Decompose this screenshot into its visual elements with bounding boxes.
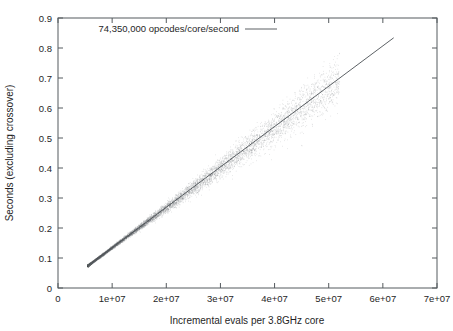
y-tick-label: 0 xyxy=(47,283,52,294)
chart-canvas: 01e+072e+073e+074e+075e+076e+077e+07 00.… xyxy=(0,0,453,331)
y-tick-label: 0.4 xyxy=(39,163,52,174)
x-tick-label: 5e+07 xyxy=(315,293,342,304)
y-axis-title: Seconds (excluding crossover) xyxy=(4,85,15,222)
y-tick-label: 0.9 xyxy=(39,13,52,24)
chart-background xyxy=(0,0,453,331)
x-tick-label: 6e+07 xyxy=(370,293,397,304)
x-tick-label: 7e+07 xyxy=(424,293,451,304)
y-tick-label: 0.7 xyxy=(39,73,52,84)
y-tick-label: 0.5 xyxy=(39,133,52,144)
x-tick-label: 1e+07 xyxy=(99,293,126,304)
x-tick-label: 4e+07 xyxy=(261,293,288,304)
y-tick-label: 0.2 xyxy=(39,223,52,234)
x-tick-label: 0 xyxy=(55,293,60,304)
x-tick-label: 3e+07 xyxy=(207,293,234,304)
y-tick-label: 0.8 xyxy=(39,43,52,54)
legend-label-opcodes: 74,350,000 opcodes/core/second xyxy=(99,23,240,34)
scatter-chart: 01e+072e+073e+074e+075e+076e+077e+07 00.… xyxy=(0,0,453,331)
y-tick-label: 0.3 xyxy=(39,193,52,204)
x-tick-label: 2e+07 xyxy=(153,293,180,304)
x-axis-title: Incremental evals per 3.8GHz core xyxy=(170,315,325,326)
y-tick-label: 0.6 xyxy=(39,103,52,114)
y-tick-label: 0.1 xyxy=(39,253,52,264)
